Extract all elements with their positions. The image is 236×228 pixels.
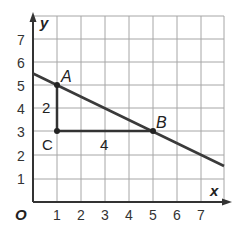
run-label: 4: [100, 136, 108, 153]
y-tick-labels: 1 2 3 4 5 6 7: [17, 32, 25, 187]
svg-text:7: 7: [197, 207, 205, 223]
svg-text:2: 2: [77, 207, 85, 223]
point-c: [54, 128, 60, 134]
point-b-label: B: [156, 114, 167, 131]
svg-text:5: 5: [149, 207, 157, 223]
svg-text:3: 3: [101, 207, 109, 223]
grid: [33, 16, 224, 202]
origin-label: O: [15, 206, 27, 223]
svg-text:1: 1: [53, 207, 61, 223]
svg-text:1: 1: [17, 171, 25, 187]
axes: [30, 12, 233, 206]
svg-text:7: 7: [17, 32, 25, 48]
svg-text:6: 6: [17, 55, 25, 71]
x-axis-label: x: [209, 182, 219, 199]
svg-text:6: 6: [173, 207, 181, 223]
svg-text:3: 3: [17, 124, 25, 140]
coordinate-plane: A B C 2 4 y x O 1 2 3 4 5 6 7 1 2 3 4 5 …: [0, 0, 236, 228]
x-tick-labels: 1 2 3 4 5 6 7: [53, 207, 205, 223]
point-a-label: A: [60, 68, 72, 85]
svg-text:4: 4: [17, 101, 25, 117]
y-axis-label: y: [39, 14, 49, 31]
point-a: [54, 82, 60, 88]
rise-label: 2: [42, 99, 50, 116]
point-c-label: C: [42, 136, 53, 153]
svg-text:2: 2: [17, 148, 25, 164]
svg-text:5: 5: [17, 78, 25, 94]
svg-text:4: 4: [125, 207, 133, 223]
